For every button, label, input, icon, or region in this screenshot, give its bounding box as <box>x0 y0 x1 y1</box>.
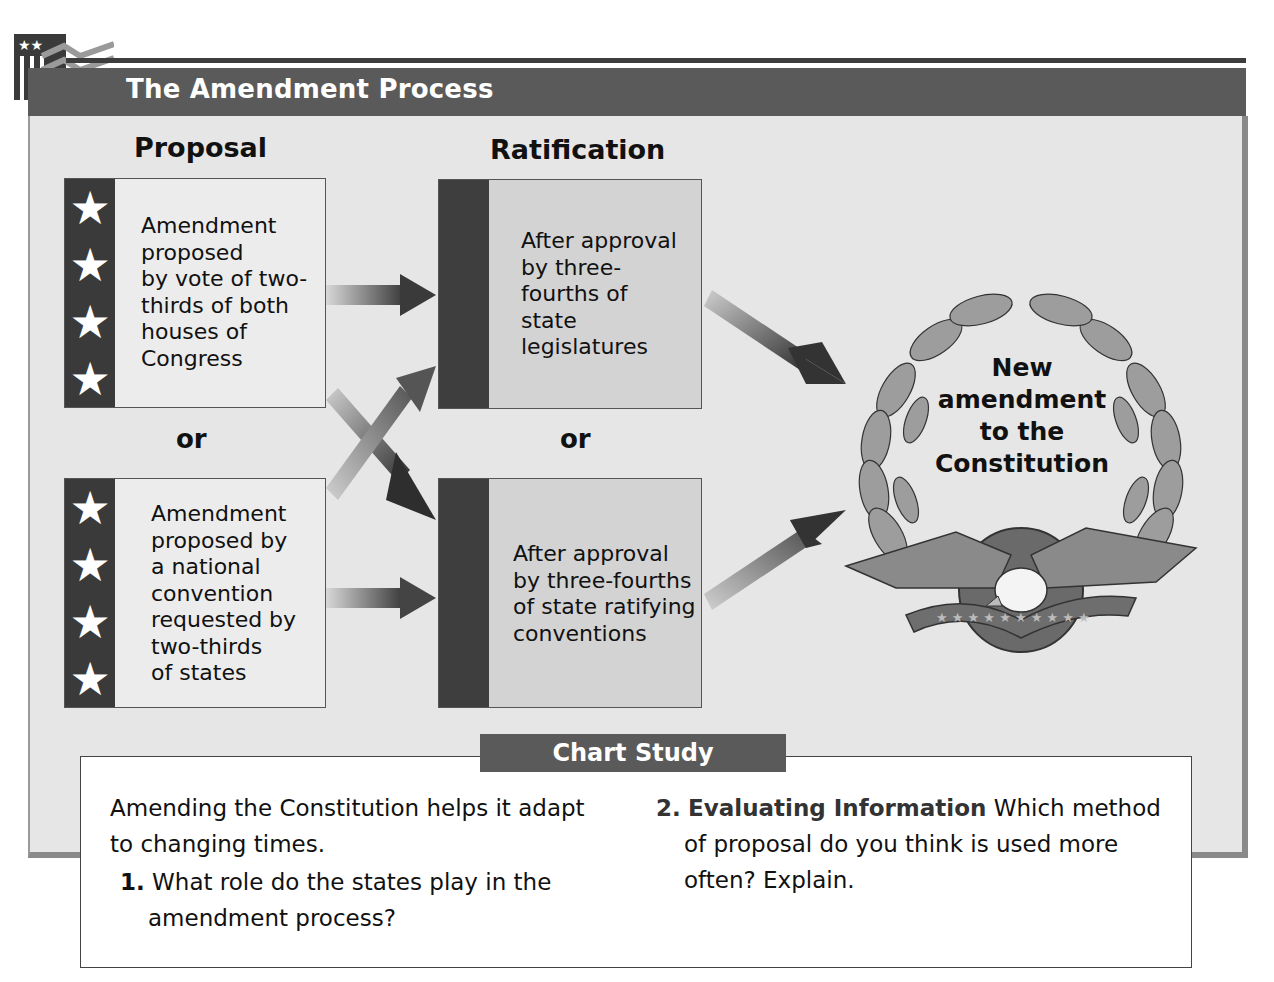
arrow-icon <box>326 366 436 500</box>
svg-text:★ ★ ★ ★ ★ ★ ★ ★ ★ ★: ★ ★ ★ ★ ★ ★ ★ ★ ★ ★ <box>936 610 1090 625</box>
question-2-text: Which method <box>994 795 1161 821</box>
question-1: 1. What role do the states play in the <box>120 864 551 900</box>
arrow-icon <box>326 274 436 316</box>
arrow-icon <box>704 510 846 610</box>
chart-study-intro-line2: to changing times. <box>110 826 325 862</box>
chart-study-intro-line1: Amending the Constitution helps it adapt <box>110 790 585 826</box>
question-2: 2. Evaluating Information Which method <box>656 790 1161 826</box>
chart-study-tab: Chart Study <box>480 734 786 772</box>
arrow-icon <box>704 290 846 384</box>
chart-study-box <box>80 756 1192 968</box>
question-2-skill: Evaluating Information <box>688 795 986 821</box>
question-1-text: What role do the states play in the <box>152 869 551 895</box>
question-1-number: 1. <box>120 869 145 895</box>
question-2-line2: of proposal do you think is used more <box>684 826 1118 862</box>
question-2-line3: often? Explain. <box>684 862 855 898</box>
question-2-number: 2. <box>656 795 681 821</box>
result-new-amendment: New amendment to the Constitution <box>920 352 1124 480</box>
arrow-icon <box>326 577 436 619</box>
question-1-line2: amendment process? <box>148 900 396 936</box>
